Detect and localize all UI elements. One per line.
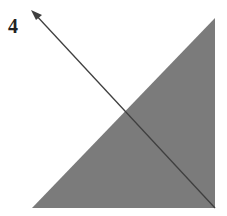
gray-triangle — [32, 18, 215, 208]
arrowhead-icon — [31, 10, 42, 20]
diagram-canvas — [0, 0, 227, 216]
